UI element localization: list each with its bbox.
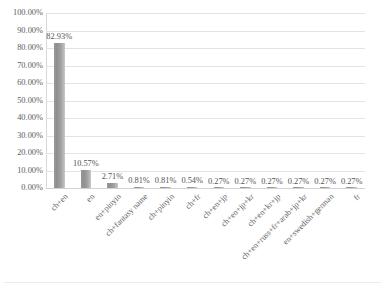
bar — [54, 43, 65, 188]
bar-value-label: 10.57% — [73, 159, 99, 168]
bar — [267, 187, 278, 188]
x-axis-category-label: ch+pinyin — [146, 192, 176, 222]
y-axis-tick: 80.00% — [0, 48, 43, 49]
y-axis-tick: 20.00% — [0, 153, 43, 154]
bar — [346, 187, 357, 188]
bar-value-label: 0.81% — [155, 176, 177, 185]
y-axis-tick: 60.00% — [0, 83, 43, 84]
bar — [320, 187, 331, 188]
x-axis-category-label: en+swedish+german — [281, 192, 335, 246]
y-axis-tick-label: 0.00% — [21, 183, 43, 192]
y-axis-tick: 70.00% — [0, 66, 43, 67]
y-axis-tick: 0.00% — [0, 188, 43, 189]
gridline — [46, 101, 365, 102]
bar-value-label: 2.71% — [102, 172, 124, 181]
y-axis-tick-label: 50.00% — [17, 96, 43, 105]
bar-value-label: 0.27% — [341, 177, 363, 186]
x-axis-category-label-wrap: en+swedish+german — [281, 192, 335, 246]
x-axis-category-label: en — [84, 192, 96, 204]
x-axis-category-label-wrap: ch+en — [49, 192, 70, 213]
gridline — [46, 48, 365, 49]
bar-value-label: 0.54% — [181, 176, 203, 185]
x-axis-category-label: ch+fr — [184, 192, 203, 211]
bar — [134, 187, 145, 188]
bar-value-label: 0.81% — [128, 176, 150, 185]
y-axis-tick: 30.00% — [0, 136, 43, 137]
bar-value-label: 82.93% — [46, 32, 72, 41]
x-axis-category-label: ch+en — [49, 192, 70, 213]
gridline — [46, 188, 365, 189]
y-axis-tick-label: 100.00% — [13, 8, 43, 17]
gridline — [46, 66, 365, 67]
bar — [214, 187, 225, 188]
y-axis-tick-label: 80.00% — [17, 43, 43, 52]
y-axis-tick-label: 70.00% — [17, 61, 43, 70]
x-axis-category-label: fr — [352, 192, 362, 202]
bar-value-label: 0.27% — [235, 177, 257, 186]
x-axis-category-label-wrap: ch+pinyin — [146, 192, 176, 222]
y-axis-tick-label: 40.00% — [17, 113, 43, 122]
y-axis-tick: 100.00% — [0, 13, 43, 14]
y-axis-tick: 40.00% — [0, 118, 43, 119]
y-axis-tick-label: 10.00% — [17, 166, 43, 175]
bar-chart: 0.00%10.00%20.00%30.00%40.00%50.00%60.00… — [0, 0, 385, 288]
y-axis-tick: 10.00% — [0, 171, 43, 172]
gridline — [46, 118, 365, 119]
bottom-rule — [4, 282, 381, 283]
y-axis-tick-label: 20.00% — [17, 148, 43, 157]
x-axis-category-label-wrap: en — [84, 192, 96, 204]
bar — [81, 170, 92, 188]
bar — [160, 187, 171, 188]
gridline — [46, 13, 365, 14]
gridline — [46, 153, 365, 154]
bar — [293, 187, 304, 188]
bar-value-label: 0.27% — [208, 177, 230, 186]
gridline — [46, 171, 365, 172]
bar-value-label: 0.27% — [288, 177, 310, 186]
y-axis-tick-labels: 0.00%10.00%20.00%30.00%40.00%50.00%60.00… — [0, 0, 43, 288]
bar-value-label: 0.27% — [261, 177, 283, 186]
y-axis-tick: 90.00% — [0, 31, 43, 32]
y-axis-tick: 50.00% — [0, 101, 43, 102]
gridline — [46, 31, 365, 32]
bar-value-label: 0.27% — [314, 177, 336, 186]
bar — [187, 187, 198, 188]
x-axis-category-label-wrap: fr — [352, 192, 362, 202]
bar — [107, 183, 118, 188]
gridline — [46, 83, 365, 84]
gridline — [46, 136, 365, 137]
x-axis-category-label-wrap: ch+fr — [184, 192, 203, 211]
y-axis-tick-label: 90.00% — [17, 26, 43, 35]
y-axis-tick-label: 60.00% — [17, 78, 43, 87]
y-axis-tick-label: 30.00% — [17, 131, 43, 140]
bar — [240, 187, 251, 188]
